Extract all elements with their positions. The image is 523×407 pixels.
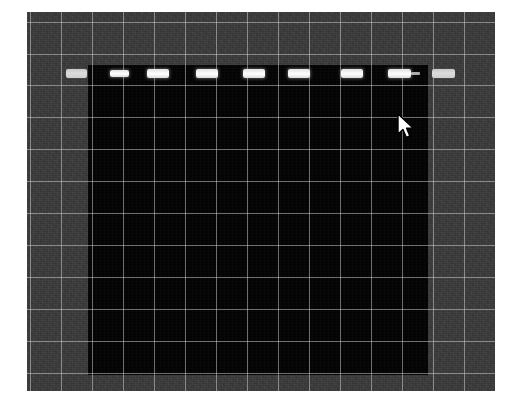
dark-sample-region[interactable] bbox=[88, 65, 428, 375]
screenshot-root: Grayscale lane image with grid overlay bbox=[0, 0, 523, 407]
capture-area[interactable] bbox=[27, 12, 495, 391]
capture-title: Grayscale lane image with grid overlay bbox=[0, 0, 1, 1]
grid-line-horizontal-1 bbox=[27, 54, 495, 55]
lane-band-8-tail bbox=[411, 72, 420, 75]
dark-region-noise bbox=[88, 65, 428, 375]
grid-line-vertical-0 bbox=[30, 12, 31, 391]
lane-band-8[interactable] bbox=[388, 69, 411, 78]
lane-band-7[interactable] bbox=[341, 69, 363, 78]
lane-band-9[interactable] bbox=[432, 69, 455, 78]
lane-band-4[interactable] bbox=[196, 69, 218, 78]
lane-band-2[interactable] bbox=[110, 70, 129, 77]
lane-band-6[interactable] bbox=[288, 69, 310, 78]
grid-line-vertical-14 bbox=[464, 12, 465, 391]
lane-band-5[interactable] bbox=[243, 69, 265, 78]
grid-line-vertical-1 bbox=[61, 12, 62, 391]
lane-band-1[interactable] bbox=[66, 69, 87, 78]
lane-band-3[interactable] bbox=[147, 69, 169, 78]
grid-line-horizontal-0 bbox=[27, 22, 495, 23]
